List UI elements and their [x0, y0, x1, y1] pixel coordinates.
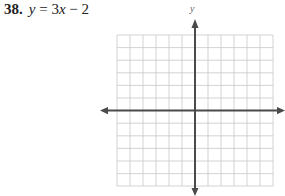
- coordinate-grid: [0, 0, 285, 196]
- x-axis-left-arrow-icon: [100, 107, 108, 114]
- y-axis-up-arrow-icon: [192, 19, 199, 28]
- y-axis-down-arrow-icon: [192, 188, 199, 196]
- x-axis-right-arrow-icon: [277, 107, 285, 114]
